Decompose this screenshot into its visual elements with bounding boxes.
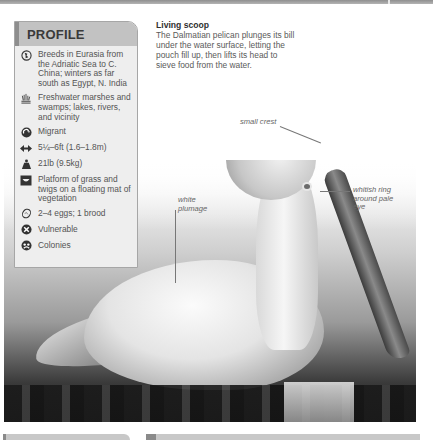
egg-icon <box>20 208 32 220</box>
caption-block: Living scoop The Dalmatian pelican plung… <box>156 20 296 70</box>
profile-title: PROFILE <box>15 22 137 46</box>
wingspan-text: 5¼–6ft (1.6–1.8m) <box>38 143 133 153</box>
profile-item-nest: Platform of grass and twigs on a floatin… <box>20 175 133 204</box>
social-text: Colonies <box>38 241 133 251</box>
annotation-small-crest: small crest <box>240 118 276 127</box>
weight-text: 21lb (9.5kg) <box>38 159 133 169</box>
caption-body: The Dalmatian pelican plunges its bill u… <box>156 30 296 70</box>
status-text: Vulnerable <box>38 225 133 235</box>
water-reflection <box>4 385 416 422</box>
next-caption-band-edge <box>146 434 420 440</box>
profile-item-weight: 21lb (9.5kg) <box>20 159 133 170</box>
globe-range-icon <box>20 49 32 61</box>
profile-item-wingspan: 5¼–6ft (1.6–1.8m) <box>20 143 133 154</box>
profile-item-habitat: Freshwater marshes and swamps; lakes, ri… <box>20 93 133 122</box>
page-top-band-separator <box>388 0 390 4</box>
range-text: Breeds in Eurasia from the Adriatic Sea … <box>38 50 133 88</box>
leader-line-crest <box>280 126 321 143</box>
page-top-band <box>0 0 433 4</box>
social-colony-icon <box>20 240 32 252</box>
profile-item-social: Colonies <box>20 241 133 252</box>
next-profile-box-edge <box>3 434 130 440</box>
reflection-highlight <box>284 382 354 422</box>
profile-box: PROFILE Breeds in Eurasia from the Adria… <box>14 21 138 268</box>
nest-text: Platform of grass and twigs on a floatin… <box>38 175 133 204</box>
migration-icon <box>20 126 32 138</box>
caption-title: Living scoop <box>156 20 296 30</box>
leader-line-eye <box>320 191 350 192</box>
profile-item-migration: Migrant <box>20 127 133 138</box>
wingspan-icon <box>20 142 32 154</box>
habitat-text: Freshwater marshes and swamps; lakes, ri… <box>38 93 133 122</box>
profile-item-status: Vulnerable <box>20 225 133 236</box>
profile-item-eggs: 2–4 eggs; 1 brood <box>20 209 133 220</box>
profile-item-range: Breeds in Eurasia from the Adriatic Sea … <box>20 50 133 88</box>
leader-line-plumage <box>175 210 176 283</box>
annotation-white-plumage: white plumage <box>178 196 218 213</box>
conservation-status-icon <box>20 224 32 236</box>
nest-icon <box>20 174 32 186</box>
marsh-habitat-icon <box>20 92 32 104</box>
weight-icon <box>20 158 32 170</box>
annotation-eye-ring: whitish ring around pale eye <box>353 186 398 212</box>
pelican-eye <box>304 184 310 189</box>
migration-text: Migrant <box>38 127 133 137</box>
eggs-text: 2–4 eggs; 1 brood <box>38 209 133 219</box>
profile-list: Breeds in Eurasia from the Adriatic Sea … <box>15 46 137 252</box>
